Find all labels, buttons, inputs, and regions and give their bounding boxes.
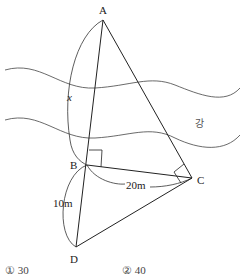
option-2[interactable]: ② 40 <box>122 264 146 277</box>
point-d-label: D <box>70 253 78 265</box>
right-angle-c <box>174 164 184 183</box>
x-brace <box>68 20 103 165</box>
right-angle-b <box>89 150 102 167</box>
line-ac <box>103 20 192 178</box>
option-1[interactable]: ① 30 <box>5 264 29 277</box>
x-label: x <box>66 91 72 103</box>
bd-length-label: 10m <box>53 197 73 209</box>
river-bank-upper <box>5 68 240 97</box>
river-label: 강 <box>195 118 204 129</box>
bc-length-label: 20m <box>126 179 146 191</box>
point-b-label: B <box>70 159 77 171</box>
river-bank-lower <box>5 118 240 147</box>
line-ad <box>76 20 103 247</box>
point-c-label: C <box>197 174 204 186</box>
point-a-label: A <box>99 4 107 16</box>
